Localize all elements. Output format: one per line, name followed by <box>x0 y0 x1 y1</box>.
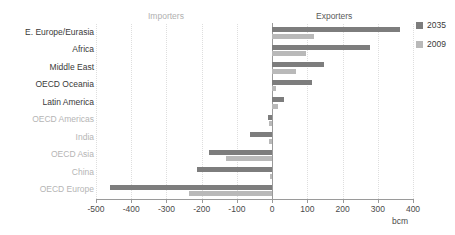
bar-2009[interactable] <box>269 121 273 126</box>
legend-label-2009: 2009 <box>427 39 446 49</box>
x-tick <box>343 199 344 203</box>
category-label: OECD Americas <box>0 114 94 124</box>
bar-group <box>96 24 413 42</box>
legend-item-2009[interactable]: 2009 <box>416 39 446 49</box>
category-label: OECD Oceania <box>0 79 94 89</box>
legend: 2035 2009 <box>416 20 446 58</box>
bar-group <box>96 94 413 112</box>
bar-2009[interactable] <box>272 34 314 39</box>
category-label: E. Europe/Eurasia <box>0 27 94 37</box>
category-label: OECD Asia <box>0 149 94 159</box>
legend-item-2035[interactable]: 2035 <box>416 20 446 30</box>
bar-group <box>96 147 413 165</box>
bar-2035[interactable] <box>272 80 312 85</box>
bar-2009[interactable] <box>272 51 305 56</box>
gridline <box>413 24 414 199</box>
category-label: Middle East <box>0 62 94 72</box>
category-label: India <box>0 132 94 142</box>
x-tick-label: -300 <box>146 204 186 214</box>
bar-group <box>96 77 413 95</box>
bar-2009[interactable] <box>269 139 273 144</box>
bar-2035[interactable] <box>272 62 324 67</box>
category-label: OECD Europe <box>0 184 94 194</box>
legend-swatch-2035 <box>416 22 423 29</box>
x-tick-label: -100 <box>217 204 257 214</box>
x-tick-label: -200 <box>182 204 222 214</box>
x-tick <box>237 199 238 203</box>
bar-group <box>96 112 413 130</box>
bar-2009[interactable] <box>272 69 296 74</box>
x-tick <box>307 199 308 203</box>
bar-2009[interactable] <box>272 86 276 91</box>
legend-label-2035: 2035 <box>427 20 446 30</box>
bar-2035[interactable] <box>197 167 272 172</box>
bar-2035[interactable] <box>272 27 400 32</box>
bar-2035[interactable] <box>209 150 272 155</box>
x-tick-label: -400 <box>111 204 151 214</box>
bar-group <box>96 42 413 60</box>
exporters-caption: Exporters <box>316 11 352 21</box>
bar-group <box>96 129 413 147</box>
bar-group <box>96 59 413 77</box>
x-tick-label: -500 <box>76 204 116 214</box>
bar-2035[interactable] <box>250 132 272 137</box>
bar-2035[interactable] <box>268 115 273 120</box>
x-tick <box>413 199 414 203</box>
bar-2009[interactable] <box>189 191 272 196</box>
x-tick <box>202 199 203 203</box>
bar-2035[interactable] <box>272 45 370 50</box>
category-label: Africa <box>0 44 94 54</box>
bar-group <box>96 182 413 200</box>
bar-2035[interactable] <box>272 97 284 102</box>
x-tick-label: 300 <box>358 204 398 214</box>
x-tick-label: 100 <box>287 204 327 214</box>
plot-area <box>96 24 413 199</box>
importers-caption: Importers <box>148 11 184 21</box>
legend-swatch-2009 <box>416 41 423 48</box>
bar-2009[interactable] <box>270 174 272 179</box>
x-tick <box>378 199 379 203</box>
x-tick-label: 400 <box>393 204 433 214</box>
x-tick <box>272 199 273 203</box>
x-axis-line <box>96 199 413 200</box>
net-gas-trade-chart: Importers Exporters E. Europe/EurasiaAfr… <box>0 0 455 235</box>
x-tick <box>96 199 97 203</box>
x-axis-unit-label: bcm <box>392 216 408 226</box>
category-label: Latin America <box>0 97 94 107</box>
bar-2009[interactable] <box>226 156 272 161</box>
category-label: China <box>0 167 94 177</box>
x-tick <box>131 199 132 203</box>
x-tick-label: 200 <box>323 204 363 214</box>
bar-group <box>96 164 413 182</box>
bar-2009[interactable] <box>272 104 278 109</box>
x-tick-label: 0 <box>252 204 292 214</box>
x-tick <box>166 199 167 203</box>
bar-2035[interactable] <box>110 185 272 190</box>
